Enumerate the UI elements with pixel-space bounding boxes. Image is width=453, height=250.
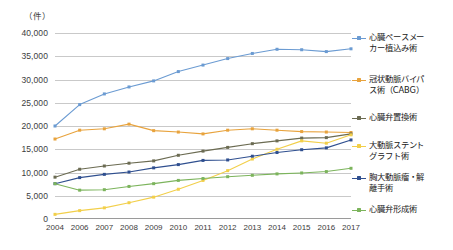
series-marker <box>202 177 205 180</box>
legend-item[interactable]: 心臓弁形成術 <box>352 204 453 215</box>
series-marker <box>177 163 180 166</box>
series-marker <box>226 169 229 172</box>
series-marker <box>177 154 180 157</box>
x-axis-tick-label: 2008 <box>120 223 138 232</box>
series-marker <box>300 148 303 151</box>
legend-label: 心臓弁置換術 <box>369 112 416 123</box>
legend-item[interactable]: 冠状動脈バイパ ス術（CABG） <box>352 74 453 95</box>
series-marker <box>177 131 180 134</box>
series-lines <box>55 33 351 219</box>
x-axis-tick-label: 2014 <box>268 223 286 232</box>
series-marker <box>54 182 57 185</box>
legend-label: 大動脈ステント グラフト術 <box>369 140 424 161</box>
x-axis-tick-label: 2010 <box>169 223 187 232</box>
series-marker <box>152 159 155 162</box>
series-marker <box>128 123 131 126</box>
legend-line-icon <box>352 76 366 85</box>
series-marker <box>202 159 205 162</box>
x-axis-labels: 2004200620072008200920102011201220132014… <box>55 221 351 241</box>
series-marker <box>251 155 254 158</box>
chart-legend: 心臓ペースメー カー植込み術冠状動脈バイパ ス術（CABG）心臓弁置換術大動脈ス… <box>352 30 453 230</box>
legend-line-icon <box>352 142 366 151</box>
series-marker <box>152 79 155 82</box>
series-marker <box>152 166 155 169</box>
series-marker <box>325 131 328 134</box>
legend-line-icon <box>352 174 366 183</box>
series-marker <box>177 188 180 191</box>
series-marker <box>78 176 81 179</box>
legend-item[interactable]: 心臓弁置換術 <box>352 112 453 123</box>
series-marker <box>226 158 229 161</box>
plot-area <box>55 33 351 219</box>
series-marker <box>276 148 279 151</box>
series-marker <box>202 150 205 153</box>
series-marker <box>152 182 155 185</box>
legend-label: 心臓弁形成術 <box>369 204 416 215</box>
series-marker <box>226 57 229 60</box>
series-marker <box>300 137 303 140</box>
legend-line-icon <box>352 34 366 43</box>
series-marker <box>177 70 180 73</box>
legend-label: 胸大動脈瘤・解 離手術 <box>369 172 424 193</box>
legend-item[interactable]: 心臓ペースメー カー植込み術 <box>352 32 453 53</box>
series-marker <box>251 158 254 161</box>
series-line <box>55 134 351 177</box>
series-marker <box>202 64 205 67</box>
x-axis-tick-label: 2007 <box>95 223 113 232</box>
series-marker <box>226 146 229 149</box>
legend-line-icon <box>352 206 366 215</box>
legend-item[interactable]: 大動脈ステント グラフト術 <box>352 140 453 161</box>
series-marker <box>103 127 106 130</box>
series-marker <box>276 129 279 132</box>
series-marker <box>152 129 155 132</box>
series-marker <box>128 162 131 165</box>
x-axis-tick-label: 2009 <box>145 223 163 232</box>
chart-root: （件） 40,00035,00030,00025,00020,00015,000… <box>0 0 453 250</box>
series-marker <box>325 136 328 139</box>
series-marker <box>54 125 57 128</box>
y-axis-tick-label: 30,000 <box>21 75 48 85</box>
x-axis-tick-label: 2004 <box>46 223 64 232</box>
series-marker <box>325 146 328 149</box>
series-marker <box>325 50 328 53</box>
series-marker <box>54 213 57 216</box>
series-marker <box>128 171 131 174</box>
series-marker <box>226 175 229 178</box>
legend-item[interactable]: 胸大動脈瘤・解 離手術 <box>352 172 453 193</box>
series-marker <box>226 129 229 132</box>
series-marker <box>128 201 131 204</box>
series-marker <box>78 209 81 212</box>
series-marker <box>103 173 106 176</box>
series-marker <box>78 189 81 192</box>
series-marker <box>103 206 106 209</box>
series-marker <box>300 171 303 174</box>
series-marker <box>251 52 254 55</box>
y-axis-tick-label: 5,000 <box>26 191 48 201</box>
series-marker <box>300 48 303 51</box>
y-axis-tick-label: 35,000 <box>21 51 48 61</box>
series-marker <box>276 139 279 142</box>
series-marker <box>251 174 254 177</box>
series-marker <box>54 176 57 179</box>
legend-label: 心臓ペースメー カー植込み術 <box>369 32 424 53</box>
series-marker <box>103 164 106 167</box>
series-marker <box>300 139 303 142</box>
series-marker <box>78 103 81 106</box>
x-axis-tick-label: 2015 <box>293 223 311 232</box>
series-marker <box>152 196 155 199</box>
legend-label: 冠状動脈バイパ ス術（CABG） <box>369 74 424 95</box>
x-axis-tick-label: 2016 <box>317 223 335 232</box>
y-axis-tick-label: 10,000 <box>21 168 48 178</box>
y-axis-tick-label: 20,000 <box>21 121 48 131</box>
series-line <box>55 124 351 139</box>
y-axis-labels: 40,00035,00030,00025,00020,00015,00010,0… <box>0 0 52 250</box>
x-axis-tick-label: 2011 <box>194 223 211 232</box>
series-marker <box>325 142 328 145</box>
series-marker <box>202 132 205 135</box>
y-axis-tick-label: 25,000 <box>21 98 48 108</box>
series-marker <box>54 138 57 141</box>
x-axis-tick-label: 2006 <box>71 223 89 232</box>
series-marker <box>103 92 106 95</box>
series-marker <box>251 127 254 130</box>
x-axis-tick-label: 2013 <box>243 223 261 232</box>
